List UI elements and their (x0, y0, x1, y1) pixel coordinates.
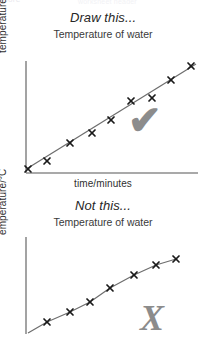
data-point-marker (131, 272, 137, 278)
data-point-marker (67, 309, 73, 315)
good-chart-title: Temperature of water (0, 28, 206, 41)
bad-example-heading: Not this... (0, 198, 206, 213)
data-point-marker (44, 158, 50, 164)
clipped-header-center-text: worksheet header (78, 0, 137, 5)
worksheet-page: Core worksheet header Draw this... Tempe… (0, 0, 206, 345)
good-example-heading: Draw this... (0, 10, 206, 25)
data-point-marker (89, 130, 95, 136)
good-example-section: Draw this... Temperature of water temper… (0, 10, 206, 190)
bad-chart-title: Temperature of water (0, 216, 206, 229)
bad-chart-y-axis-label: emperature/°C (0, 169, 9, 235)
bad-example-section: Not this... Temperature of water emperat… (0, 198, 206, 345)
good-chart-data-points (25, 63, 194, 172)
good-chart-svg (0, 41, 206, 181)
data-point-marker (168, 77, 174, 83)
data-point-marker (44, 319, 50, 325)
good-chart-x-axis-label: time/minutes (0, 178, 206, 189)
bad-chart-svg (0, 229, 206, 334)
bad-chart-plot: emperature/°C (0, 229, 206, 334)
data-point-marker (108, 117, 114, 123)
data-point-marker (87, 299, 93, 305)
good-chart-plot: temperature/°C (0, 41, 206, 181)
data-point-marker (107, 285, 113, 291)
checkmark-icon: ✔ (128, 100, 162, 140)
cross-icon: X (140, 300, 164, 336)
